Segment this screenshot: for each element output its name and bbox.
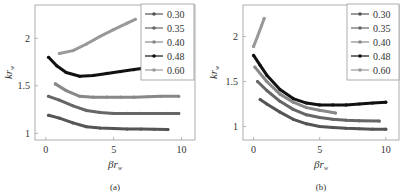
- y-axis-label: krw: [2, 66, 15, 79]
- legend-label: 0.35: [373, 23, 391, 34]
- data-point: [278, 111, 281, 114]
- data-point: [331, 118, 334, 121]
- legend-marker: [152, 12, 156, 16]
- data-point: [378, 120, 381, 123]
- data-point: [265, 80, 268, 83]
- legend-marker: [152, 26, 156, 30]
- data-point: [105, 96, 108, 99]
- data-point: [139, 112, 142, 115]
- data-point: [260, 24, 263, 27]
- data-point: [292, 97, 295, 100]
- data-point: [384, 101, 387, 104]
- data-point: [160, 95, 163, 98]
- legend-marker: [358, 12, 362, 16]
- legend-label: 0.48: [373, 51, 391, 62]
- data-point: [134, 18, 137, 21]
- data-point: [318, 116, 321, 119]
- data-point: [132, 68, 135, 71]
- data-point: [371, 128, 374, 131]
- data-point: [345, 119, 348, 122]
- legend-label: 0.40: [373, 37, 391, 48]
- data-point: [146, 95, 149, 98]
- data-point: [305, 113, 308, 116]
- x-tick-label: 10: [381, 144, 391, 155]
- data-point: [126, 127, 129, 130]
- data-point: [263, 17, 266, 20]
- data-point: [292, 108, 295, 111]
- data-point: [71, 121, 74, 124]
- x-axis-label: βrw: [313, 158, 328, 171]
- x-tick-label: 10: [176, 144, 186, 155]
- data-point: [92, 74, 95, 77]
- data-point: [265, 74, 268, 77]
- legend-marker: [152, 68, 156, 72]
- legend-label: 0.40: [167, 37, 185, 48]
- data-point: [126, 21, 129, 24]
- data-point: [78, 95, 81, 98]
- data-point: [358, 119, 361, 122]
- x-axis-label: βrw: [107, 158, 122, 171]
- data-point: [112, 28, 115, 31]
- data-point: [371, 102, 374, 105]
- data-point: [166, 128, 169, 131]
- data-point: [318, 125, 321, 128]
- data-point: [305, 106, 308, 109]
- y-tick-label: 2: [233, 31, 238, 42]
- data-point: [331, 126, 334, 129]
- x-tick-label: 5: [111, 144, 116, 155]
- x-tick-label: 5: [317, 144, 322, 155]
- legend-label: 0.30: [167, 9, 185, 20]
- chart-panel-a: 051011.52βrwkrw(a)0.300.350.400.480.60: [0, 0, 203, 195]
- data-point: [292, 118, 295, 121]
- legend: 0.300.350.400.480.60: [347, 4, 399, 80]
- data-point: [384, 128, 387, 131]
- data-point: [305, 122, 308, 125]
- data-point: [126, 112, 129, 115]
- data-point: [153, 128, 156, 131]
- y-tick-label: 1.5: [18, 80, 31, 91]
- data-point: [265, 89, 268, 92]
- panel-label: (a): [110, 182, 120, 192]
- data-point: [58, 117, 61, 120]
- data-point: [252, 45, 255, 48]
- legend-marker: [152, 54, 156, 58]
- x-tick-label: 0: [251, 144, 256, 155]
- data-point: [55, 64, 58, 67]
- legend: 0.300.350.400.480.60: [141, 4, 194, 80]
- data-point: [119, 96, 122, 99]
- legend-marker: [152, 40, 156, 44]
- legend-label: 0.60: [167, 65, 185, 76]
- data-point: [345, 127, 348, 130]
- data-point: [252, 54, 255, 57]
- y-tick-label: 1: [25, 128, 30, 139]
- data-point: [112, 112, 115, 115]
- legend-label: 0.60: [373, 65, 391, 76]
- data-point: [265, 102, 268, 105]
- legend-label: 0.35: [167, 23, 185, 34]
- data-point: [105, 72, 108, 75]
- data-point: [139, 127, 142, 130]
- data-point: [278, 93, 281, 96]
- data-point: [166, 112, 169, 115]
- x-tick-label: 0: [43, 144, 48, 155]
- data-point: [259, 64, 262, 67]
- data-point: [305, 102, 308, 105]
- y-axis-label: krw: [207, 66, 220, 79]
- data-point: [318, 103, 321, 106]
- data-point: [78, 75, 81, 78]
- data-point: [98, 127, 101, 130]
- data-point: [177, 95, 180, 98]
- data-point: [47, 95, 50, 98]
- data-point: [98, 35, 101, 38]
- data-point: [358, 127, 361, 130]
- data-point: [65, 71, 68, 74]
- data-point: [98, 111, 101, 114]
- data-point: [92, 96, 95, 99]
- data-point: [358, 102, 361, 105]
- data-point: [47, 56, 50, 59]
- data-point: [331, 103, 334, 106]
- data-point: [318, 109, 321, 112]
- legend-label: 0.30: [373, 9, 391, 20]
- data-point: [177, 112, 180, 115]
- data-point: [112, 127, 115, 130]
